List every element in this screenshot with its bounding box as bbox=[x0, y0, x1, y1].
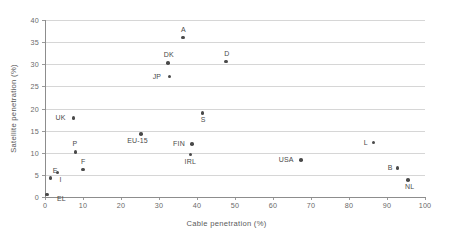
data-point bbox=[45, 193, 49, 197]
gridline bbox=[45, 175, 425, 176]
data-point-label: S bbox=[201, 116, 206, 123]
x-axis-line bbox=[45, 197, 426, 198]
data-point bbox=[406, 178, 410, 182]
x-tick-label: 40 bbox=[185, 201, 209, 210]
gridline bbox=[45, 86, 425, 87]
y-tick-label: 20 bbox=[17, 105, 39, 114]
data-point-label: L bbox=[364, 139, 368, 146]
x-tick-label: 70 bbox=[299, 201, 323, 210]
x-tick-label: 80 bbox=[337, 201, 361, 210]
gridline bbox=[45, 20, 425, 21]
data-point bbox=[166, 61, 170, 65]
data-point-label: D bbox=[224, 50, 229, 57]
y-tick-label: 30 bbox=[17, 60, 39, 69]
gridline bbox=[45, 64, 425, 65]
gridline bbox=[45, 109, 425, 110]
x-axis-title: Cable penetration (%) bbox=[0, 219, 453, 228]
y-tick-label: 35 bbox=[17, 38, 39, 47]
data-point bbox=[299, 158, 303, 162]
scatter-chart: 0510152025303540 0102030405060708090100 … bbox=[0, 0, 453, 240]
data-point bbox=[74, 150, 78, 154]
data-point bbox=[139, 132, 143, 136]
data-point-label: I bbox=[60, 176, 62, 183]
gridline bbox=[45, 131, 425, 132]
y-axis-line bbox=[45, 20, 46, 198]
gridline bbox=[45, 42, 425, 43]
x-tick-label: 0 bbox=[33, 201, 57, 210]
x-tick-label: 10 bbox=[71, 201, 95, 210]
data-point-label: F bbox=[81, 158, 85, 165]
data-point-label: NL bbox=[405, 183, 414, 190]
data-point-label: A bbox=[181, 26, 186, 33]
data-point bbox=[190, 142, 194, 146]
data-point-label: P bbox=[72, 140, 77, 147]
y-axis-title: Satellite penetration (%) bbox=[9, 34, 18, 184]
data-point-label: FIN bbox=[173, 140, 185, 147]
y-tick-label: 10 bbox=[17, 149, 39, 158]
x-tick-label: 100 bbox=[413, 201, 437, 210]
data-point-label: DK bbox=[164, 51, 174, 58]
data-point bbox=[396, 166, 400, 170]
x-tick-label: 30 bbox=[147, 201, 171, 210]
gridline bbox=[45, 153, 425, 154]
data-point-label: EU-15 bbox=[127, 137, 148, 144]
data-point-label: EL bbox=[57, 195, 66, 202]
data-point-label: B bbox=[388, 164, 393, 171]
data-point-label: USA bbox=[279, 156, 294, 163]
x-tick-label: 20 bbox=[109, 201, 133, 210]
x-tick-label: 50 bbox=[223, 201, 247, 210]
data-point-label: UK bbox=[56, 114, 66, 121]
y-tick-label: 25 bbox=[17, 82, 39, 91]
y-tick-label: 5 bbox=[17, 171, 39, 180]
y-tick-label: 15 bbox=[17, 127, 39, 136]
x-tick-label: 90 bbox=[375, 201, 399, 210]
x-tick-label: 60 bbox=[261, 201, 285, 210]
data-point-label: JP bbox=[153, 73, 162, 80]
y-tick-label: 40 bbox=[17, 16, 39, 25]
data-point-label: IRL bbox=[185, 158, 197, 165]
